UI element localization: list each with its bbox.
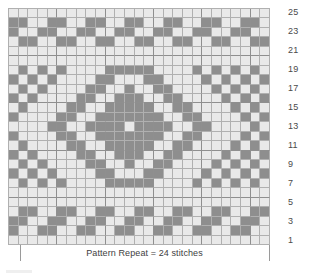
grid-cell [154, 18, 164, 27]
grid-cell [106, 9, 116, 18]
grid-cell [193, 9, 203, 18]
grid-cell [193, 188, 203, 197]
grid-cell [48, 85, 58, 94]
grid-cell [57, 103, 67, 112]
grid-cell [241, 169, 251, 178]
grid-cell [135, 85, 145, 94]
grid-cell [135, 141, 145, 150]
grid-cell [38, 198, 48, 207]
grid-cell [28, 113, 38, 122]
grid-cell [193, 198, 203, 207]
grid-cell [164, 56, 174, 65]
row-number-axis: 135791113151719212325 [274, 8, 308, 245]
grid-cell [193, 85, 203, 94]
grid-cell [154, 226, 164, 235]
grid-cell [231, 160, 241, 169]
grid-cell [135, 179, 145, 188]
grid-cell [38, 141, 48, 150]
grid-cell [144, 179, 154, 188]
grid-cell [28, 236, 38, 245]
grid-cell [48, 141, 58, 150]
grid-cell [19, 217, 29, 226]
grid-cell [106, 94, 116, 103]
grid-cell [202, 151, 212, 160]
grid-cell [28, 103, 38, 112]
grid-cell [173, 66, 183, 75]
grid-cell [77, 236, 87, 245]
grid-cell [183, 160, 193, 169]
grid-cell [28, 207, 38, 216]
grid-cell [154, 160, 164, 169]
grid-cell [260, 198, 270, 207]
grid-cell [9, 103, 19, 112]
grid-cell [212, 66, 222, 75]
grid-cell [86, 113, 96, 122]
grid-cell [144, 132, 154, 141]
grid-cell [19, 179, 29, 188]
grid-cell [67, 141, 77, 150]
grid-cell [183, 66, 193, 75]
grid-cell [86, 18, 96, 27]
grid-cell [144, 226, 154, 235]
grid-cell [9, 113, 19, 122]
grid-cell [222, 37, 232, 46]
grid-cell [164, 47, 174, 56]
grid-cell [106, 66, 116, 75]
grid-cell [19, 226, 29, 235]
grid-cell [202, 226, 212, 235]
grid-cell [154, 66, 164, 75]
grid-cell [19, 28, 29, 37]
grid-cell [173, 236, 183, 245]
grid-cell [251, 66, 261, 75]
grid-cell [96, 226, 106, 235]
grid-cell [28, 75, 38, 84]
grid-cell [183, 18, 193, 27]
grid-cell [125, 207, 135, 216]
row-number-label: 3 [288, 217, 293, 226]
grid-cell [19, 113, 29, 122]
grid-cell [67, 207, 77, 216]
grid-cell [57, 188, 67, 197]
grid-cell [115, 207, 125, 216]
grid-cell [135, 198, 145, 207]
grid-cell [212, 179, 222, 188]
grid-cell [19, 132, 29, 141]
grid-cell [144, 47, 154, 56]
grid-cell [67, 198, 77, 207]
grid-cell [125, 236, 135, 245]
grid-cell [9, 141, 19, 150]
grid-cell [106, 141, 116, 150]
grid-cell [67, 28, 77, 37]
grid-cell [86, 198, 96, 207]
grid-cell [222, 188, 232, 197]
grid-cell [183, 188, 193, 197]
grid-cell [96, 169, 106, 178]
grid-cell [135, 28, 145, 37]
grid-cell [57, 94, 67, 103]
grid-cell [241, 66, 251, 75]
grid-cell [202, 198, 212, 207]
grid-cell [38, 169, 48, 178]
grid-cell [202, 122, 212, 131]
grid-cell [9, 226, 19, 235]
grid-cell [222, 122, 232, 131]
grid-cell [183, 198, 193, 207]
grid-cell [86, 122, 96, 131]
grid-cell [125, 103, 135, 112]
grid-cell [9, 151, 19, 160]
grid-cell [57, 56, 67, 65]
grid-cell [212, 28, 222, 37]
grid-cell [77, 132, 87, 141]
grid-cell [135, 113, 145, 122]
grid-cell [67, 9, 77, 18]
grid-cell [222, 151, 232, 160]
grid-cell [231, 236, 241, 245]
grid-cell [231, 141, 241, 150]
grid-cell [231, 9, 241, 18]
grid-cell [57, 18, 67, 27]
grid-cell [9, 169, 19, 178]
grid-cell [96, 113, 106, 122]
grid-cell [135, 56, 145, 65]
grid-cell [164, 141, 174, 150]
grid-cell [202, 56, 212, 65]
